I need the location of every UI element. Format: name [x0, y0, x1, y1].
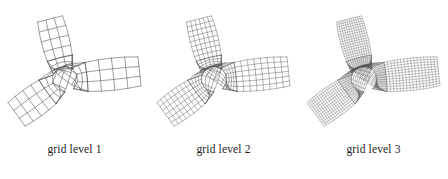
quadrilateral-mesh-level-2: [149, 2, 298, 140]
grid-panel-level-2: grid level 2: [149, 0, 298, 179]
grid-panel-caption-1: grid level 1: [0, 143, 149, 155]
grid-panel-caption-3: grid level 3: [299, 143, 448, 155]
grid-panel-level-3: grid level 3: [299, 0, 448, 179]
quadrilateral-mesh-level-1: [0, 2, 149, 140]
quadrilateral-mesh-level-3: [299, 2, 448, 140]
grid-panel-level-1: grid level 1: [0, 0, 149, 179]
grid-panel-caption-2: grid level 2: [149, 143, 298, 155]
mesh-refinement-figure: grid level 1 grid level 2 grid level 3: [0, 0, 448, 179]
